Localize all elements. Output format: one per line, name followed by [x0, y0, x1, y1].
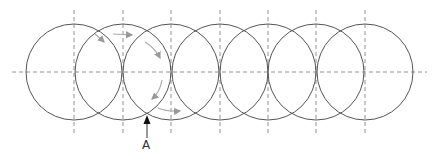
path-arrow-4 — [152, 80, 162, 99]
path-arrows — [95, 34, 180, 111]
circles-diagram — [0, 0, 436, 156]
point-a-arrow — [144, 115, 151, 138]
path-arrow-3 — [145, 42, 160, 58]
point-a-label: A — [142, 138, 150, 152]
path-arrow-2 — [113, 34, 132, 35]
path-arrow-1 — [95, 34, 104, 42]
diagram-canvas: A — [0, 0, 436, 156]
path-arrow-5 — [158, 108, 180, 111]
